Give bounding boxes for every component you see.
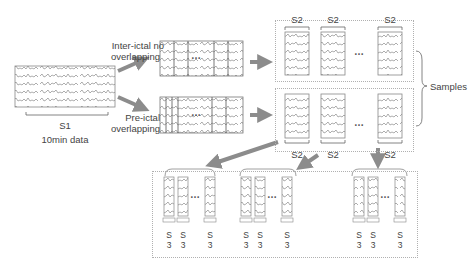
s3-label-3-1: S3 [354, 230, 364, 250]
s2-label-top-3: S2 [378, 14, 402, 25]
s1-eeg-block [15, 66, 115, 115]
s2-label-bottom-1: S2 [285, 149, 309, 160]
s3-label-3-2: S3 [368, 230, 378, 250]
s1-label: S1 [45, 120, 85, 131]
s2-bottom-ellipsis: … [354, 117, 365, 128]
s3-label-1-2: S3 [178, 230, 188, 250]
s3-label-2-1: S3 [241, 230, 251, 250]
samples-brace [416, 51, 427, 126]
interictal-samples-container [275, 20, 414, 82]
preictal-ellipsis: … [191, 107, 202, 118]
s3-label-3-3: S3 [395, 230, 405, 250]
s2-top-ellipsis: … [354, 46, 365, 57]
s2-label-bottom-3: S2 [378, 149, 402, 160]
s3-group-3-ellipsis: … [380, 189, 391, 200]
arrow-to-s3-group-1 [212, 142, 278, 164]
arrow-to-preictal [118, 97, 143, 108]
preictal-label-line2: overlapping [104, 123, 160, 134]
s3-group-2-ellipsis: … [267, 189, 278, 200]
s3-label-1-1: S3 [164, 230, 174, 250]
s2-label-top-2: S2 [321, 14, 345, 25]
s2-label-top-1: S2 [285, 14, 309, 25]
samples-label: Samples [430, 81, 474, 92]
s1-bracket [26, 112, 108, 115]
s3-label-2-2: S3 [255, 230, 265, 250]
s3-label-1-3: S3 [205, 230, 215, 250]
interictal-label-line1: Inter-ictal no [104, 40, 164, 51]
s2-label-bottom-2: S2 [321, 149, 345, 160]
interictal-ellipsis: … [191, 50, 202, 61]
preictal-samples-container [275, 88, 414, 152]
preictal-label-line1: Pre-ictal [104, 112, 160, 123]
s3-label-2-3: S3 [282, 230, 292, 250]
interictal-label-line2: overlapping [104, 51, 160, 62]
s1-caption: 10min data [30, 134, 100, 145]
s3-group-1-ellipsis: … [190, 189, 201, 200]
